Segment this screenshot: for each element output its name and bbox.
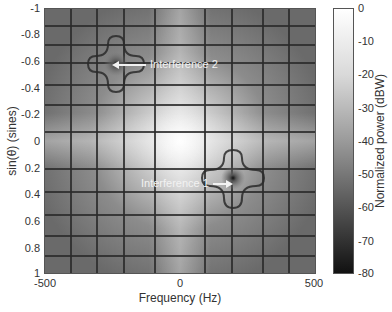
colorbar-tick: -70 [358,236,374,247]
colorbar-tick: -30 [358,103,374,114]
colorbar-tick: -50 [358,169,374,180]
y-tick: -0.8 [21,29,40,40]
colorbar-tick: 0 [358,3,364,14]
colorbar-label: Normalized power (dBW) [373,74,387,208]
interference-1-arrow [213,183,226,185]
y-tick: -0.6 [21,56,40,67]
y-tick: 0.8 [25,243,40,254]
interference-2-arrowhead [112,61,119,69]
y-tick: -0.4 [21,83,40,94]
y-tick: -1 [30,3,40,14]
x-tick: 0 [177,278,183,289]
y-tick: -0.2 [21,109,40,120]
interference-1-arrowhead [226,180,233,188]
colorbar-tick: -80 [358,268,374,279]
colorbar [333,8,354,274]
y-tick: 0.6 [25,216,40,227]
colorbar-tick: -60 [358,202,374,213]
interference-2-arrow [118,64,146,66]
x-tick: -500 [34,278,56,289]
y-tick: 0 [34,136,40,147]
colorbar-tick: -20 [358,69,374,80]
y-tick: 0.4 [25,189,40,200]
x-axis-label: Frequency (Hz) [139,291,222,305]
heatmap-plot [44,8,316,274]
colorbar-tick: -10 [358,36,374,47]
interference-2-label: Interference 2 [150,58,218,70]
interference-1-label: Interference 1 [141,177,209,189]
x-tick: 500 [305,278,323,289]
colorbar-tick: -40 [358,136,374,147]
y-axis-ticks: -1 -0.8 -0.6 -0.4 -0.2 0 0.2 0.4 0.6 0.8… [0,0,40,290]
y-tick: 0.2 [25,163,40,174]
